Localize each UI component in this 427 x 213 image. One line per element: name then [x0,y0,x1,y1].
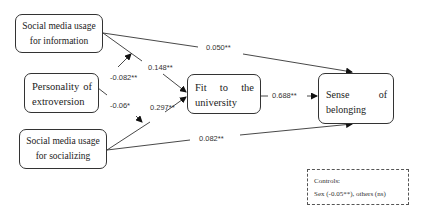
node-social-media-information: Social media usage for information [15,14,103,53]
node-label-word: Fit [195,80,207,95]
node-personality-extroversion: Personality of extroversion [24,73,99,113]
node-label-line1: Social media usage [26,134,99,149]
node-label-line2: belonging [326,102,387,117]
node-label-line2: for socializing [36,149,91,164]
coef-fit-to-belonging: 0.688** [272,91,297,100]
node-social-media-socializing: Social media usage for socializing [19,129,107,169]
node-label-word: of [83,79,92,94]
node-label-line2: extroversion [32,94,92,109]
coef-socializing-to-fit: 0.297** [150,103,175,112]
coef-info-to-fit: 0.148** [148,63,173,72]
node-sense-belonging: Sense of belonging [318,73,394,124]
node-label-word: of [379,87,387,102]
controls-title: Controls: [314,175,402,188]
controls-box: Controls: Sex (-0.05**), others (ns) [307,169,409,205]
node-label-line2: for information [30,34,88,49]
coef-socializing-to-belonging: 0.082** [199,134,224,143]
node-fit-university: Fit to the university [187,74,261,114]
node-label-line2: university [195,95,254,110]
controls-text: Sex (-0.05**), others (ns) [314,188,402,201]
path-info-to-fit [103,33,186,92]
node-label-line1: Social media usage [22,19,95,34]
coef-extroversion-moderation-info: -0.082** [110,73,137,82]
node-label-word: Sense [326,87,349,102]
node-label-word: Personality [32,79,79,94]
path-info-to-belonging [103,33,352,72]
moderation-arrow-info [118,54,131,67]
moderation-stub [98,88,107,95]
coef-extroversion-moderation-socializing: -0.06* [110,101,130,110]
path-socializing-to-belonging [107,124,352,150]
node-label-word: to [220,80,228,95]
coef-info-to-belonging: 0.050** [206,43,231,52]
moderation-arrow-socializing [136,116,142,122]
node-label-word: the [241,80,254,95]
